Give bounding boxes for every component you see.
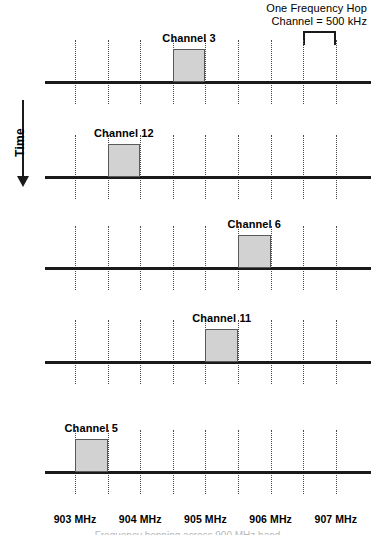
channel-block <box>205 329 238 362</box>
row-axis-line <box>45 176 371 179</box>
channel-gridline <box>108 430 109 494</box>
channel-gridline <box>173 226 174 290</box>
channel-gridline <box>336 320 337 384</box>
row-axis-line <box>45 267 371 270</box>
channel-gridline <box>140 40 141 104</box>
channel-gridline <box>271 430 272 494</box>
legend-line-channel-bandwidth: Channel = 500 kHz <box>271 15 367 28</box>
channel-gridline <box>271 40 272 104</box>
channel-gridline <box>271 320 272 384</box>
channel-gridline <box>336 430 337 494</box>
hop-width-bracket-icon <box>303 31 336 45</box>
channel-gridline <box>303 430 304 494</box>
channel-label: Channel 3 <box>139 32 239 44</box>
legend-line-one-frequency-hop: One Frequency Hop <box>266 2 367 15</box>
channel-gridline <box>336 40 337 104</box>
row-axis-line <box>45 81 371 84</box>
channel-gridline <box>336 226 337 290</box>
channel-gridline <box>336 135 337 199</box>
channel-label: Channel 5 <box>41 422 141 434</box>
channel-gridline <box>271 226 272 290</box>
channel-gridline <box>303 226 304 290</box>
time-axis-label: Time <box>13 107 27 157</box>
channel-gridline <box>205 135 206 199</box>
channel-gridline <box>108 320 109 384</box>
channel-gridline <box>75 135 76 199</box>
channel-gridline <box>140 430 141 494</box>
channel-block <box>173 49 206 82</box>
channel-gridline <box>205 430 206 494</box>
channel-gridline <box>75 320 76 384</box>
channel-gridline <box>238 430 239 494</box>
channel-gridline <box>173 135 174 199</box>
frequency-tick-label: 907 MHz <box>296 513 375 525</box>
channel-gridline <box>108 40 109 104</box>
channel-label: Channel 6 <box>204 218 304 230</box>
channel-gridline <box>238 40 239 104</box>
channel-block <box>75 439 108 472</box>
channel-gridline <box>173 430 174 494</box>
frequency-hopping-diagram: One Frequency Hop Channel = 500 kHz Time… <box>0 0 375 535</box>
channel-gridline <box>140 135 141 199</box>
channel-gridline <box>75 40 76 104</box>
channel-gridline <box>140 226 141 290</box>
channel-gridline <box>173 320 174 384</box>
channel-gridline <box>303 40 304 104</box>
channel-gridline <box>75 226 76 290</box>
channel-block <box>108 144 141 177</box>
channel-gridline <box>238 320 239 384</box>
channel-label: Channel 12 <box>74 127 174 139</box>
channel-label: Channel 11 <box>172 312 272 324</box>
channel-block <box>238 235 271 268</box>
channel-gridline <box>271 135 272 199</box>
channel-gridline <box>140 320 141 384</box>
channel-gridline <box>303 320 304 384</box>
channel-gridline <box>303 135 304 199</box>
channel-gridline <box>238 135 239 199</box>
figure-caption-clipped: Frequency hopping across 900 MHz band <box>0 530 375 535</box>
channel-gridline <box>108 226 109 290</box>
channel-gridline <box>205 40 206 104</box>
channel-gridline <box>205 226 206 290</box>
time-arrow-head-icon <box>17 176 29 187</box>
